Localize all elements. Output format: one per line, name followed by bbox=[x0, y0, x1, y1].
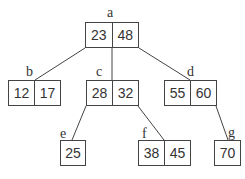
edge-a-d bbox=[139, 48, 190, 80]
node-g-key-1: 70 bbox=[215, 141, 240, 165]
node-c-key-1: 28 bbox=[87, 81, 112, 105]
node-d-key-2: 60 bbox=[190, 81, 216, 105]
node-c-key-2: 32 bbox=[112, 81, 138, 105]
edge-a-b bbox=[35, 48, 85, 80]
node-a-key-1: 23 bbox=[86, 23, 112, 47]
node-g: 70 bbox=[214, 140, 241, 166]
node-c: 28 32 bbox=[86, 80, 139, 106]
node-label-f: f bbox=[142, 127, 147, 141]
node-d-key-1: 55 bbox=[165, 81, 190, 105]
node-e-key-1: 25 bbox=[61, 141, 85, 165]
node-label-e: e bbox=[60, 127, 66, 141]
node-b-key-2: 17 bbox=[34, 81, 60, 105]
node-b: 12 17 bbox=[8, 80, 61, 106]
node-label-b: b bbox=[26, 65, 33, 79]
node-label-d: d bbox=[187, 65, 194, 79]
node-d: 55 60 bbox=[164, 80, 217, 106]
node-label-a: a bbox=[107, 6, 113, 20]
b-tree-diagram: a 23 48 b 12 17 c 28 32 d 55 60 e 25 f 3… bbox=[0, 0, 245, 179]
node-f-key-2: 45 bbox=[164, 141, 190, 165]
edge-d-g bbox=[216, 106, 228, 140]
node-label-c: c bbox=[96, 65, 102, 79]
node-label-g: g bbox=[228, 126, 235, 140]
node-f-key-1: 38 bbox=[139, 141, 164, 165]
node-e: 25 bbox=[60, 140, 86, 166]
node-f: 38 45 bbox=[138, 140, 191, 166]
node-a: 23 48 bbox=[85, 22, 139, 48]
edge-c-e bbox=[72, 106, 86, 140]
node-a-key-2: 48 bbox=[112, 23, 139, 47]
node-b-key-1: 12 bbox=[9, 81, 34, 105]
